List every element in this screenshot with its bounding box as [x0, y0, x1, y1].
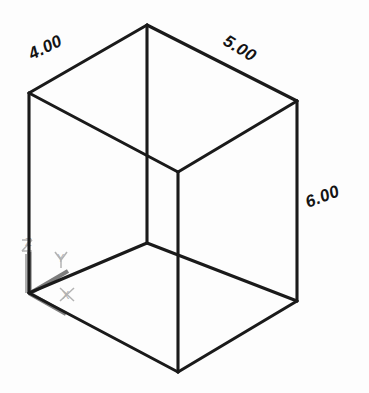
ucs-x-label: X: [62, 289, 70, 301]
drawing-canvas: Z Y X 4.00 5.00 6.00: [0, 0, 369, 393]
depth-dimension-label: 5.00: [220, 31, 260, 65]
edge-bottom-right-back: [147, 243, 297, 301]
edge-top-right-front: [178, 101, 297, 172]
dimension-labels: 4.00 5.00 6.00: [25, 31, 343, 212]
isometric-box-drawing: Z Y X 4.00 5.00 6.00: [0, 0, 369, 393]
ucs-y-label: Y: [57, 252, 65, 264]
edge-top-right-back: [147, 25, 297, 101]
edge-bottom-left-front: [29, 293, 178, 372]
height-dimension-label: 6.00: [303, 181, 343, 211]
edge-bottom-right-front: [178, 301, 297, 372]
edge-bottom-left-back: [29, 243, 147, 293]
box-wireframe: [29, 25, 297, 372]
edge-top-left-front: [29, 93, 178, 172]
width-dimension-label: 4.00: [25, 31, 66, 64]
